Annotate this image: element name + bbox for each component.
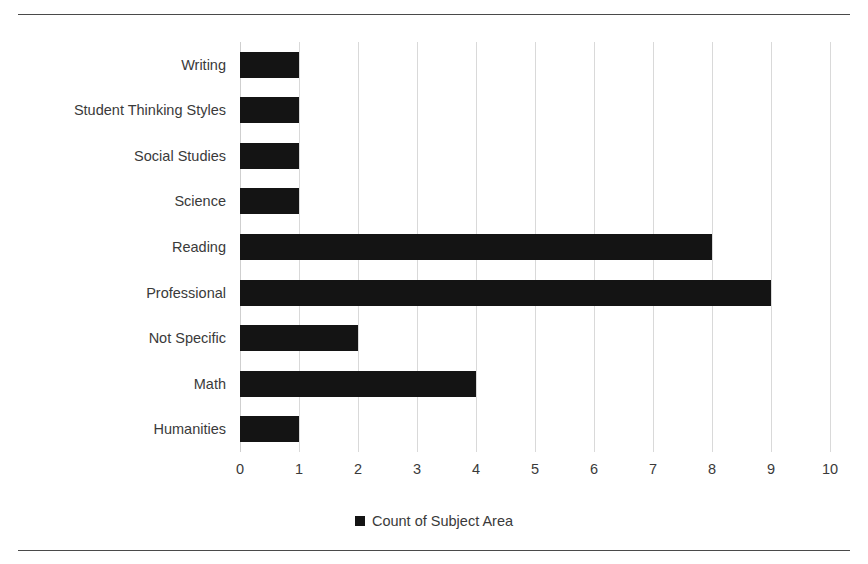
tick-label: 1 <box>279 462 319 477</box>
bar-row <box>240 88 830 134</box>
bar <box>240 280 771 306</box>
chart-title-cropped <box>0 0 868 13</box>
category-label: Social Studies <box>0 149 226 164</box>
tick-label: 7 <box>633 462 673 477</box>
tick-label: 9 <box>751 462 791 477</box>
legend-swatch-icon <box>355 516 365 526</box>
category-label: Not Specific <box>0 331 226 346</box>
category-label: Math <box>0 377 226 392</box>
tick-label: 0 <box>220 462 260 477</box>
bar-row <box>240 42 830 88</box>
tick-label: 3 <box>397 462 437 477</box>
bar <box>240 234 712 260</box>
tick-label: 6 <box>574 462 614 477</box>
bar-row <box>240 133 830 179</box>
category-label: Science <box>0 194 226 209</box>
chart-page: WritingStudent Thinking StylesSocial Stu… <box>0 0 868 564</box>
legend-label: Count of Subject Area <box>372 513 513 529</box>
gridline-10 <box>830 42 831 452</box>
bar <box>240 371 476 397</box>
tick-label: 4 <box>456 462 496 477</box>
bar <box>240 143 299 169</box>
bar-row <box>240 270 830 316</box>
bar-row <box>240 361 830 407</box>
bar <box>240 416 299 442</box>
tick-label: 10 <box>810 462 850 477</box>
bar <box>240 325 358 351</box>
plot-area <box>240 42 830 452</box>
bar <box>240 97 299 123</box>
bar-row <box>240 406 830 452</box>
category-label: Student Thinking Styles <box>0 103 226 118</box>
tick-label: 5 <box>515 462 555 477</box>
tick-label: 8 <box>692 462 732 477</box>
category-label: Professional <box>0 286 226 301</box>
bar <box>240 188 299 214</box>
category-label: Reading <box>0 240 226 255</box>
bar <box>240 52 299 78</box>
chart-legend: Count of Subject Area <box>0 513 868 529</box>
category-label: Writing <box>0 58 226 73</box>
bar-row <box>240 179 830 225</box>
top-divider-rule <box>18 14 850 15</box>
tick-label: 2 <box>338 462 378 477</box>
category-label: Humanities <box>0 422 226 437</box>
bar-row <box>240 315 830 361</box>
bar-row <box>240 224 830 270</box>
bottom-divider-rule <box>18 550 850 551</box>
